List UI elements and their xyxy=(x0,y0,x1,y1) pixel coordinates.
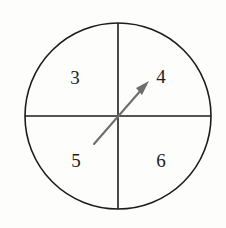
quadrant-label-top-right: 4 xyxy=(148,67,174,86)
quadrant-circle-diagram xyxy=(0,0,226,228)
quadrant-label-bottom-left: 5 xyxy=(63,151,89,170)
quadrant-label-top-left: 3 xyxy=(62,68,88,87)
figure-root: 3 4 5 6 xyxy=(0,0,226,228)
quadrant-label-bottom-right: 6 xyxy=(148,151,174,170)
